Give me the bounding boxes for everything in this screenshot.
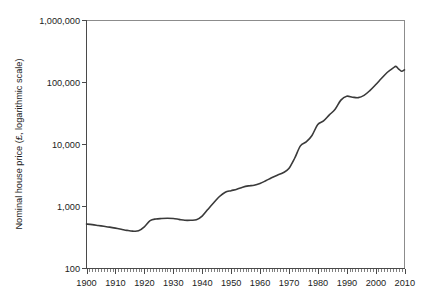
y-tick-label: 10,000 xyxy=(52,140,80,150)
y-tick-label: 1,000 xyxy=(57,202,80,212)
chart-figure: Nominal house price (£, logarithmic scal… xyxy=(0,0,438,306)
y-tick-label: 100 xyxy=(65,264,80,274)
x-tick-label: 1970 xyxy=(279,278,299,288)
y-axis-tick-labels: 1,000,000 100,000 10,000 1,000 100 xyxy=(39,16,80,274)
x-tick-label: 1980 xyxy=(308,278,328,288)
x-tick-label: 1960 xyxy=(250,278,270,288)
y-tick-label: 100,000 xyxy=(47,78,80,88)
x-tick-label: 1910 xyxy=(105,278,125,288)
x-tick-label: 1900 xyxy=(76,278,96,288)
y-tick-label: 1,000,000 xyxy=(39,16,80,26)
data-series-line xyxy=(87,66,405,231)
x-tick-label: 1930 xyxy=(163,278,183,288)
x-tick-label: 1990 xyxy=(337,278,357,288)
x-tick-label: 2000 xyxy=(366,278,386,288)
x-tick-label: 1920 xyxy=(134,278,154,288)
y-axis-title: Nominal house price (£, logarithmic scal… xyxy=(14,58,24,229)
x-tick-label: 2010 xyxy=(395,278,415,288)
y-axis-ticks xyxy=(82,21,87,269)
x-axis-tick-labels: 1900 1910 1920 1930 1940 1950 1960 1970 … xyxy=(76,278,415,288)
x-tick-label: 1940 xyxy=(192,278,212,288)
house-price-line-chart: Nominal house price (£, logarithmic scal… xyxy=(0,0,438,306)
x-tick-label: 1950 xyxy=(221,278,241,288)
